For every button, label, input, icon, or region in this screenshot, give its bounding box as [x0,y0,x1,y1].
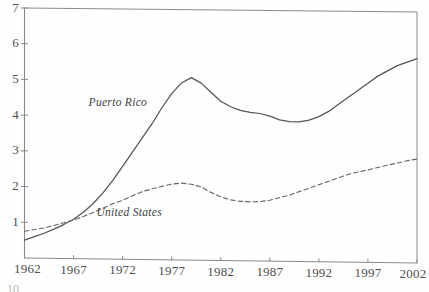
x-axis-tick-label: 1972 [103,262,143,278]
y-axis-tick-label: 5 [3,71,19,87]
y-axis-tick-label: 6 [3,35,19,51]
y-axis-tick-label: 1 [3,214,19,230]
x-axis-tick-label: 2002 [393,266,429,282]
axis-ticks [21,8,417,264]
scan-footnote-artifact: 10 [7,283,19,292]
x-axis-tick-label: 1962 [8,261,48,277]
chart-figure: 1234567 19621967197219771982198719921997… [0,0,429,292]
y-axis-tick-label: 7 [3,0,19,16]
series-line-puerto-rico [25,59,418,241]
plot-frame [25,8,418,263]
x-axis-tick-label: 1977 [152,263,192,279]
data-series-group [25,59,418,241]
y-axis-tick-label: 2 [3,178,19,194]
series-label-united-states: United States [96,206,162,218]
x-axis-tick-label: 1997 [348,265,388,281]
series-line-united-states [25,159,418,231]
x-axis-tick-label: 1992 [299,265,339,281]
x-axis-tick-label: 1982 [201,264,241,280]
top-spine [25,8,418,12]
y-axis-tick-label: 4 [3,107,19,123]
x-axis-tick-label: 1987 [250,264,290,280]
x-axis-tick-label: 1967 [54,262,94,278]
y-axis-tick-label: 3 [3,142,19,158]
series-label-puerto-rico: Puerto Rico [89,96,148,108]
chart-canvas [0,0,429,292]
